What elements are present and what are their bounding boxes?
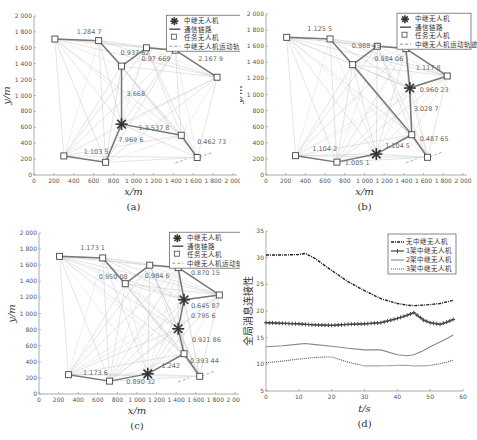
x-tick-label: 0 [264,177,268,184]
task-uav-marker [100,255,106,261]
legend-entry: 中继无人机运动轨迹 [415,40,477,49]
x-tick-label: 0 [37,396,41,403]
task-uav-marker [350,62,356,68]
y-tick-label: 600 [21,123,33,130]
edge-weight-label: 1.284 7 [77,28,102,36]
task-uav-marker [147,262,153,268]
x-tick-label: 2 000 [224,177,240,184]
task-uav-marker [181,351,187,357]
y-axis-label: y/m [6,304,17,324]
x-tick-label: 1 000 [356,177,373,184]
x-tick-label: 800 [112,396,124,403]
y-tick-label: 2 000 [20,229,37,236]
panel-caption: (b) [357,201,371,212]
task-legend-icon [402,32,407,37]
y-tick-label: 15 [256,334,264,341]
legend-entry: 通信链路 [184,25,212,34]
task-uav-marker [284,34,290,40]
relay-legend-icon [401,15,409,23]
communication-links-mesh [55,39,217,162]
y-tick-label: 800 [253,107,265,114]
y-tick-label: 1 400 [20,277,37,284]
x-tick-label: 1 600 [415,177,432,184]
task-uav-marker [61,153,67,159]
x-tick-label: 1 000 [128,396,145,403]
legend-entry: 任务无人机 [187,250,222,259]
series-line [266,357,453,366]
task-uav-marker [409,132,415,138]
task-uav-marker [96,38,102,44]
y-tick-label: 800 [21,107,33,114]
relay-uav-icon [172,323,184,335]
relay-legend-icon [170,17,178,25]
network-plot-b: 02004006008001 0001 2001 4001 6001 8002 … [240,0,477,220]
legend: 中继无人机通信链路任务无人机中继无人机运动轨迹 [397,13,477,49]
relay-uav-icon [116,118,128,130]
y-tick-label: 2 000 [15,12,32,19]
x-tick-label: 0 [32,177,36,184]
x-tick-label: 600 [88,177,100,184]
y-axis-label: 全局消息连接性 [242,276,254,346]
x-tick-label: 1 200 [376,177,393,184]
x-axis-label: x/m [355,186,374,197]
y-tick-label: 200 [253,155,265,162]
relay-uav-icon [404,82,416,94]
y-tick-label: 1 400 [247,58,264,65]
y-tick-label: 10 [256,360,264,367]
x-tick-label: 60 [459,393,467,400]
edge-weight-label: 0.462 73 [197,138,226,146]
edge-weight-label: 0.393 44 [190,357,219,365]
y-tick-label: 1 200 [15,76,32,83]
panel-caption: (a) [127,201,141,212]
y-tick-label: 400 [26,358,38,365]
x-tick-label: 200 [280,177,292,184]
y-tick-label: 400 [21,139,33,146]
task-uav-marker [327,36,333,42]
task-legend-icon [171,34,176,39]
y-tick-label: 1 800 [20,245,37,252]
x-tick-label: 800 [108,177,120,184]
x-tick-label: 40 [394,393,402,400]
y-tick-label: 200 [21,155,33,162]
legend-entry: 无中继无人机 [406,237,448,246]
x-tick-label: 200 [48,177,60,184]
network-plot-c: 02004006008001 0001 2001 4001 6001 8002 … [0,220,240,440]
legend: 中继无人机通信链路任务无人机中继无人机运动轨迹 [169,232,240,268]
panel-caption: (c) [130,420,144,431]
legend-entry: 任务无人机 [184,33,219,42]
edge-weight-label: 1.103 5 [84,148,109,156]
panel-c: 02004006008001 0001 2001 4001 6001 8002 … [0,220,240,440]
x-tick-label: 2 000 [226,396,240,403]
edge-weight-label: 3.028 7 [414,105,439,113]
x-tick-label: 20 [328,393,336,400]
x-tick-label: 1 400 [168,396,185,403]
task-uav-marker [119,63,125,69]
legend: 无中继无人机1架中继无人机2架中继无人机3架中继无人机 [388,234,456,274]
edge-weight-label: 7.969 6 [119,136,144,144]
legend-entry: 2架中继无人机 [406,255,452,264]
legend-entry: 中继无人机 [184,16,219,25]
y-tick-label: 0 [28,171,32,178]
communication-links-mesh [287,37,448,162]
edge-weight-label: 0.988 45 [352,42,381,50]
y-tick-label: 600 [253,123,265,130]
y-tick-label: 0 [33,390,37,397]
panel-b: 02004006008001 0001 2001 4001 6001 8002 … [240,0,477,220]
edge-weight-label: 0.890 32 [126,378,155,386]
edge-weight-label: 0.645 87 [191,302,220,310]
task-uav-marker [57,253,63,259]
task-uav-marker [52,36,58,42]
legend-entry: 1架中继无人机 [406,246,452,255]
y-tick-label: 0 [260,171,264,178]
x-tick-label: 600 [319,177,331,184]
edge-weight-label: 0.984 6 [145,272,170,280]
edge-weight-label: 1.104 2 [312,145,337,153]
edge-weight-label: 1.242 [162,362,181,370]
y-tick-label: 25 [256,280,264,287]
task-uav-marker [122,281,128,287]
x-axis-label: t/s [358,403,371,414]
x-tick-label: 200 [53,396,65,403]
relay-uav-icon [370,148,382,160]
y-tick-label: 600 [26,342,38,349]
x-tick-label: 2 000 [454,177,471,184]
